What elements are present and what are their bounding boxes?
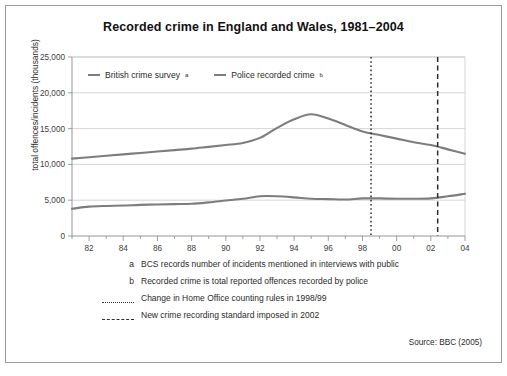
x-axis-tick-label: 04	[460, 244, 470, 253]
legend-swatch-bcs	[88, 74, 100, 77]
chart-legend: British crime surveya Police recorded cr…	[88, 70, 323, 80]
y-axis-tick-label: 15,000	[40, 125, 65, 134]
x-axis-tick-label: 92	[255, 244, 265, 253]
legend-label-police: Police recorded crime	[231, 70, 314, 80]
footnote-text-b: Recorded crime is total reported offence…	[141, 277, 368, 286]
legend-item-police: Police recorded crimeb	[214, 70, 322, 80]
x-axis-tick-label: 94	[290, 244, 300, 253]
x-axis-tick-label: 00	[392, 244, 402, 253]
y-axis-tick-label: 5,000	[45, 196, 66, 205]
y-axis-tick-label: 20,000	[40, 89, 65, 98]
y-axis-tick-label: 0	[60, 232, 65, 241]
y-axis-tick-label: 10,000	[40, 160, 65, 169]
footnote-marker-b: b	[100, 277, 134, 286]
footnotes: a BCS records number of incidents mentio…	[100, 260, 500, 328]
dotted-line-key-icon	[100, 298, 134, 307]
legend-footnote-marker-b: b	[319, 72, 322, 78]
source-credit: Source: BBC (2005)	[409, 338, 482, 347]
footnote-row: b Recorded crime is total reported offen…	[100, 277, 500, 294]
x-axis-tick-label: 96	[324, 244, 334, 253]
series-line-police	[72, 194, 465, 209]
footnote-row: New crime recording standard imposed in …	[100, 311, 500, 328]
figure-container: Recorded crime in England and Wales, 198…	[0, 0, 507, 376]
x-axis-tick-label: 84	[119, 244, 129, 253]
x-axis-tick-label: 98	[358, 244, 368, 253]
footnote-text-a: BCS records number of incidents mentione…	[141, 260, 399, 269]
footnote-marker-a: a	[100, 260, 134, 269]
legend-item-bcs: British crime surveya	[88, 70, 188, 80]
legend-label-bcs: British crime survey	[105, 70, 180, 80]
footnote-text-dotted: Change in Home Office counting rules in …	[141, 294, 327, 303]
x-axis-tick-label: 86	[153, 244, 163, 253]
series-line-bcs	[72, 114, 465, 158]
x-axis-tick-label: 88	[187, 244, 197, 253]
footnote-text-dashed: New crime recording standard imposed in …	[141, 311, 319, 320]
dashed-line-key-icon	[100, 315, 134, 324]
footnote-row: Change in Home Office counting rules in …	[100, 294, 500, 311]
x-axis-tick-label: 90	[221, 244, 231, 253]
x-axis-tick-label: 02	[426, 244, 436, 253]
x-axis-tick-label: 82	[85, 244, 95, 253]
y-axis-tick-label: 25,000	[40, 53, 65, 62]
legend-swatch-police	[214, 74, 226, 77]
legend-footnote-marker-a: a	[185, 72, 188, 78]
footnote-row: a BCS records number of incidents mentio…	[100, 260, 500, 277]
